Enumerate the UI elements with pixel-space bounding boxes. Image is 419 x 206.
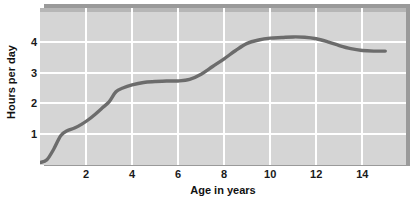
gridline-y-4 — [40, 41, 406, 43]
gridline-x-8 — [223, 8, 225, 165]
gridline-x-2 — [85, 8, 87, 165]
x-tick-label-6: 6 — [175, 168, 181, 180]
x-axis-title: Age in years — [40, 184, 406, 196]
x-axis-tick-labels: 2468101214 — [0, 168, 419, 184]
x-tick-label-12: 12 — [310, 168, 322, 180]
gridline-y-1 — [40, 133, 406, 135]
x-tick-label-14: 14 — [356, 168, 368, 180]
gridline-x-10 — [269, 8, 271, 165]
x-tick-label-2: 2 — [83, 168, 89, 180]
gridline-x-14 — [361, 8, 363, 165]
x-tick-label-10: 10 — [264, 168, 276, 180]
gridline-x-12 — [315, 8, 317, 165]
gridline-y-3 — [40, 72, 406, 74]
plot-area — [40, 8, 406, 165]
line-chart: 1234 2468101214 Age in years Hours per d… — [0, 0, 419, 206]
y-axis-title-wrapper: Hours per day — [5, 22, 21, 142]
gridline-x-6 — [177, 8, 179, 165]
gridline-x-4 — [131, 8, 133, 165]
gridline-y-2 — [40, 102, 406, 104]
x-tick-label-8: 8 — [221, 168, 227, 180]
x-tick-label-4: 4 — [129, 168, 135, 180]
y-axis-title: Hours per day — [5, 22, 17, 142]
